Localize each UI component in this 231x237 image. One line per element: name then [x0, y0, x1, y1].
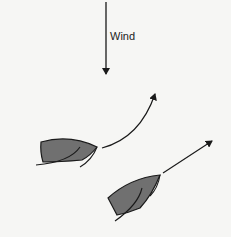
boat-2-icon — [108, 175, 160, 221]
boat-1-path-arrow — [102, 94, 155, 148]
wind-label: Wind — [110, 30, 135, 42]
boat-1-icon — [36, 139, 97, 167]
boat-2-path-arrow — [163, 141, 212, 173]
